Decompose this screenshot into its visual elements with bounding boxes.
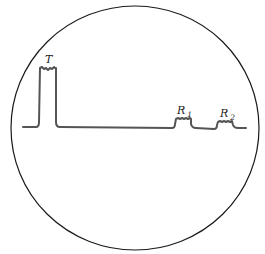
label-r1: R1	[176, 104, 192, 119]
signal-trace	[23, 67, 246, 129]
label-r2: R2	[219, 107, 235, 122]
oscilloscope-display: T R1 R2	[0, 0, 265, 254]
label-t: T	[45, 53, 54, 66]
